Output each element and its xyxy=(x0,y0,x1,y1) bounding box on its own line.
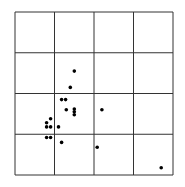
data-point xyxy=(159,166,163,170)
data-point xyxy=(73,113,77,117)
data-point xyxy=(57,125,61,129)
data-point xyxy=(100,108,104,112)
data-point xyxy=(45,121,49,125)
data-points xyxy=(45,69,163,169)
data-point xyxy=(49,136,53,140)
data-point xyxy=(69,86,73,90)
data-point xyxy=(45,125,49,129)
data-point xyxy=(60,98,64,102)
data-point xyxy=(60,141,64,145)
data-point xyxy=(49,117,53,121)
data-point xyxy=(73,69,77,73)
data-point xyxy=(95,146,99,150)
data-point xyxy=(65,108,69,112)
data-point xyxy=(45,136,49,140)
plot-grid xyxy=(15,12,173,175)
data-point xyxy=(64,98,68,102)
scatter-plot xyxy=(0,0,185,187)
data-point xyxy=(49,125,53,129)
